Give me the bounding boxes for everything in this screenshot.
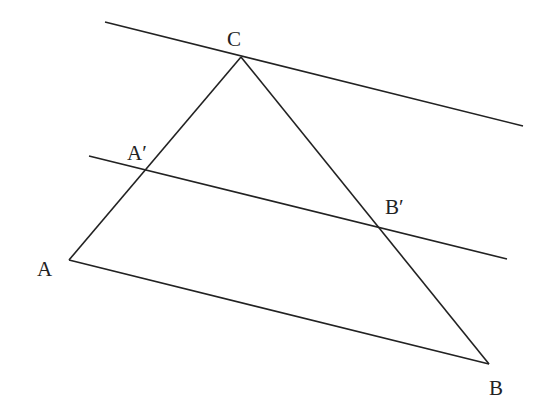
label-a-prime: A′ [127, 141, 147, 165]
segment-ca [69, 57, 241, 260]
diagram-svg: C A′ B′ A B [0, 0, 540, 415]
label-a: A [37, 257, 53, 281]
segment-ab [69, 260, 489, 364]
label-b-prime: B′ [385, 195, 404, 219]
segment-bc [241, 57, 489, 364]
parallel-line-through-c [105, 22, 523, 126]
geometry-diagram: C A′ B′ A B [0, 0, 540, 415]
label-c: C [227, 27, 241, 51]
label-b: B [489, 376, 503, 400]
parallel-line-a-prime-b-prime [89, 156, 507, 259]
